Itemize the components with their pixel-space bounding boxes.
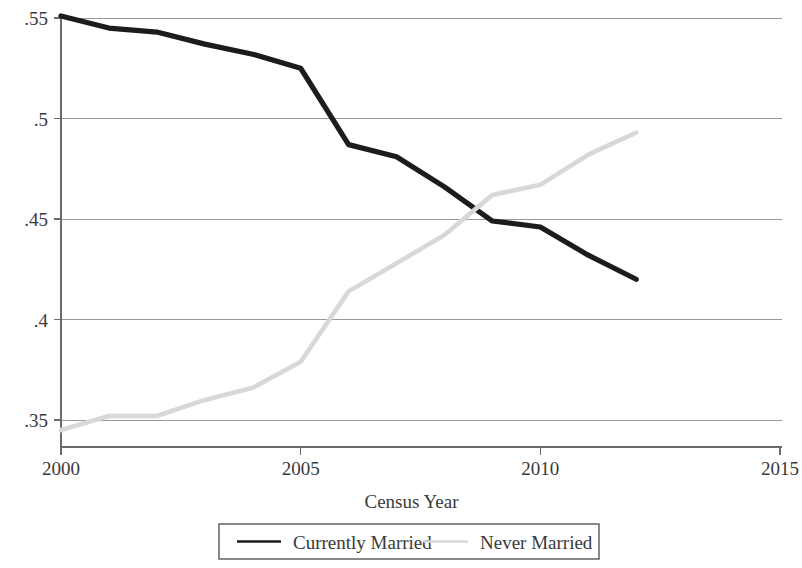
y-tick-label-.5: .5 <box>34 109 48 130</box>
series-line-currently-married <box>61 16 636 279</box>
y-tick-label-.45: .45 <box>24 209 48 230</box>
y-tick-label-.35: .35 <box>24 410 48 431</box>
data-series-group <box>61 16 636 430</box>
legend-label-currently-married: Currently Married <box>293 532 432 553</box>
y-axis-tick-labels: .35.4.45.5.55 <box>24 8 48 431</box>
gridlines-group <box>61 18 782 420</box>
x-tick-label-2005: 2005 <box>282 458 320 479</box>
x-axis-tick-labels: 2000200520102015 <box>42 458 799 479</box>
x-tick-label-2000: 2000 <box>42 458 80 479</box>
chart-legend: Currently MarriedNever Married <box>219 524 599 559</box>
chart-canvas: .35.4.45.5.55 2000200520102015 Census Ye… <box>0 0 802 568</box>
legend-label-never-married: Never Married <box>480 532 593 553</box>
x-tick-label-2010: 2010 <box>521 458 559 479</box>
x-axis-title: Census Year <box>365 491 460 512</box>
axes-group <box>54 18 782 455</box>
series-line-never-married <box>61 133 636 430</box>
y-tick-label-.55: .55 <box>24 8 48 29</box>
y-tick-label-.4: .4 <box>34 310 49 331</box>
chart-figure: .35.4.45.5.55 2000200520102015 Census Ye… <box>0 0 802 568</box>
x-tick-label-2015: 2015 <box>761 458 799 479</box>
